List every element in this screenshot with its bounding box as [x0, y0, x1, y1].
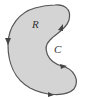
curve-c [8, 5, 76, 95]
region-label: R [32, 18, 39, 30]
region-shape [0, 0, 88, 97]
region-diagram: R C [0, 0, 88, 97]
curve-label: C [54, 43, 61, 55]
